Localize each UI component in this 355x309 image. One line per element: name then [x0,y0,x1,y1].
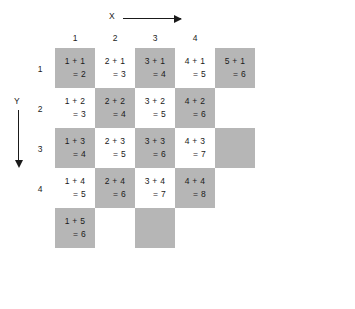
cell-expression: 1 + 5 [65,215,86,228]
cell-expression: 1 + 4 [65,175,86,188]
cell-result: = 6 [104,188,126,201]
cell-result: = 3 [64,108,86,121]
grid-cell-x1-y2: 1 + 2= 3 [55,88,95,128]
cell-result: = 5 [144,108,166,121]
cell-result: = 4 [104,108,126,121]
y-axis-label: Y [14,96,20,106]
grid-cell-x2-y5 [95,208,135,248]
column-header-1: 1 [55,33,95,43]
grid-cell-x2-y1: 2 + 1= 3 [95,48,135,88]
cell-result: = 6 [184,108,206,121]
cell-result: = 5 [64,188,86,201]
grid-cell-x5-y1: 5 + 1= 6 [215,48,255,88]
cell-expression: 4 + 3 [185,135,206,148]
grid-cell-x1-y1: 1 + 1= 2 [55,48,95,88]
cell-expression: 3 + 2 [145,95,166,108]
cell-expression: 2 + 1 [105,55,126,68]
row-header-4: 4 [34,184,46,194]
cell-expression: 1 + 1 [65,55,86,68]
cell-result: = 2 [64,68,86,81]
x-axis-label: X [109,11,115,21]
cell-result: = 3 [104,68,126,81]
cell-expression: 1 + 2 [65,95,86,108]
cell-result: = 7 [144,188,166,201]
grid-cell-x3-y2: 3 + 2= 5 [135,88,175,128]
cell-expression: 2 + 3 [105,135,126,148]
column-header-4: 4 [175,33,215,43]
x-axis-right-arrow-icon [123,18,181,19]
cell-expression: 4 + 4 [185,175,206,188]
cell-expression: 1 + 3 [65,135,86,148]
checkerboard-grid: 1 + 1= 22 + 1= 33 + 1= 44 + 1= 55 + 1= 6… [55,48,335,293]
cell-result: = 4 [144,68,166,81]
grid-cell-x4-y1: 4 + 1= 5 [175,48,215,88]
row-header-2: 2 [34,104,46,114]
grid-cell-x4-y4: 4 + 4= 8 [175,168,215,208]
grid-cell-x4-y2: 4 + 2= 6 [175,88,215,128]
grid-cell-x4-y3: 4 + 3= 7 [175,128,215,168]
cell-expression: 4 + 2 [185,95,206,108]
x-axis-group: X [109,11,229,25]
cell-expression: 4 + 1 [185,55,206,68]
cell-result: = 8 [184,188,206,201]
grid-cell-x1-y4: 1 + 4= 5 [55,168,95,208]
grid-cell-x3-y3: 3 + 3= 6 [135,128,175,168]
row-header-3: 3 [34,144,46,154]
grid-cell-x2-y4: 2 + 4= 6 [95,168,135,208]
grid-cell-x5-y2 [215,88,255,128]
grid-cell-x2-y2: 2 + 2= 4 [95,88,135,128]
cell-result: = 6 [64,228,86,241]
grid-cell-x3-y1: 3 + 1= 4 [135,48,175,88]
grid-cell-x3-y4: 3 + 4= 7 [135,168,175,208]
grid-cell-x5-y3 [215,128,255,168]
cell-result: = 6 [144,148,166,161]
column-header-3: 3 [135,33,175,43]
y-axis-down-arrow-icon [18,110,19,160]
y-axis-group: Y [13,96,35,176]
cell-expression: 2 + 4 [105,175,126,188]
cell-expression: 2 + 2 [105,95,126,108]
row-header-1: 1 [34,64,46,74]
cell-result: = 5 [184,68,206,81]
cell-result: = 4 [64,148,86,161]
grid-cell-x3-y5 [135,208,175,248]
cell-expression: 3 + 4 [145,175,166,188]
cell-result: = 6 [224,68,246,81]
grid-cell-x1-y3: 1 + 3= 4 [55,128,95,168]
column-header-2: 2 [95,33,135,43]
cell-result: = 7 [184,148,206,161]
cell-expression: 3 + 3 [145,135,166,148]
cell-result: = 5 [104,148,126,161]
grid-cell-x1-y5: 1 + 5= 6 [55,208,95,248]
cell-expression: 5 + 1 [225,55,246,68]
grid-cell-x2-y3: 2 + 3= 5 [95,128,135,168]
addition-table-figure: X Y 1 2 3 4 1 2 3 4 1 + 1= 22 + 1= 33 + … [0,0,355,309]
cell-expression: 3 + 1 [145,55,166,68]
